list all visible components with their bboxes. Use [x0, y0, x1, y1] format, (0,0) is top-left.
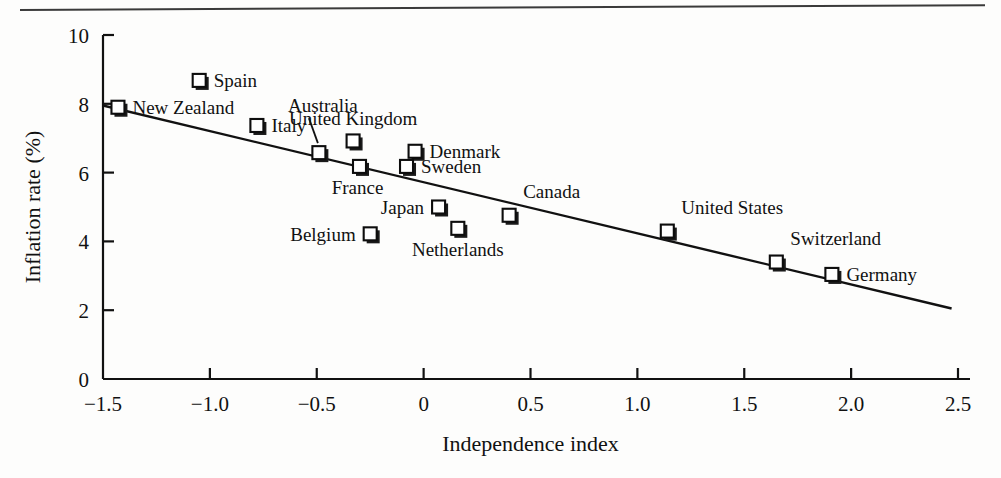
data-point-label: United States	[681, 197, 783, 218]
data-point-marker[interactable]	[409, 145, 422, 158]
data-point-label: United Kingdom	[289, 108, 417, 129]
data-point-marker[interactable]	[451, 222, 464, 235]
data-point-label: France	[332, 177, 384, 198]
data-point-label: Germany	[846, 264, 917, 285]
y-tick-label: 2	[79, 299, 90, 323]
y-tick-label: 10	[68, 24, 89, 48]
data-point-marker[interactable]	[825, 268, 838, 281]
x-tick-label: 0	[418, 392, 429, 416]
data-point-marker[interactable]	[347, 134, 360, 147]
data-point-marker[interactable]	[661, 225, 674, 238]
data-point-marker[interactable]	[312, 146, 325, 159]
x-tick-label: 2.5	[945, 392, 971, 416]
data-point-label: New Zealand	[132, 97, 234, 118]
x-axis-title: Independence index	[442, 431, 619, 456]
regression-line	[103, 106, 952, 309]
figure-canvas: 0246810−1.5−1.0−0.500.51.01.52.02.5Indep…	[0, 0, 1001, 478]
x-tick-label: 0.5	[517, 392, 543, 416]
data-point-label: Belgium	[290, 224, 356, 245]
y-tick-label: 4	[79, 230, 90, 254]
data-point-marker[interactable]	[400, 160, 413, 173]
scatter-plot: 0246810−1.5−1.0−0.500.51.01.52.02.5Indep…	[0, 0, 1001, 478]
data-point-marker[interactable]	[364, 227, 377, 240]
data-point-label: Netherlands	[412, 239, 504, 260]
data-point-marker[interactable]	[111, 101, 124, 114]
data-point-label: Switzerland	[790, 228, 881, 249]
data-point-marker[interactable]	[503, 209, 516, 222]
x-tick-label: −0.5	[298, 392, 336, 416]
x-tick-label: −1.0	[191, 392, 229, 416]
data-point-marker[interactable]	[193, 74, 206, 87]
x-tick-label: 1.0	[624, 392, 650, 416]
y-tick-label: 6	[79, 162, 90, 186]
y-axis-title: Inflation rate (%)	[20, 131, 45, 284]
data-point-label: Japan	[381, 197, 425, 218]
data-point-label: Spain	[214, 70, 258, 91]
data-point-marker[interactable]	[250, 119, 263, 132]
y-tick-label: 8	[79, 93, 90, 117]
data-point-label: Sweden	[421, 156, 482, 177]
y-tick-label: 0	[79, 368, 90, 392]
x-tick-label: 2.0	[838, 392, 864, 416]
data-point-label: Canada	[523, 181, 581, 202]
x-tick-label: −1.5	[84, 392, 122, 416]
x-tick-label: 1.5	[731, 392, 757, 416]
data-point-marker[interactable]	[432, 201, 445, 214]
data-point-marker[interactable]	[353, 160, 366, 173]
data-point-marker[interactable]	[770, 256, 783, 269]
